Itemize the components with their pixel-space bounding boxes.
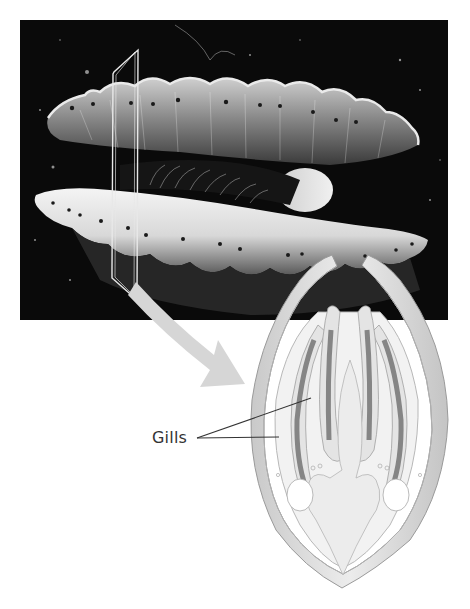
figure: Gills (0, 0, 470, 609)
figure-canvas (0, 0, 470, 609)
gills-label: Gills (152, 428, 187, 447)
